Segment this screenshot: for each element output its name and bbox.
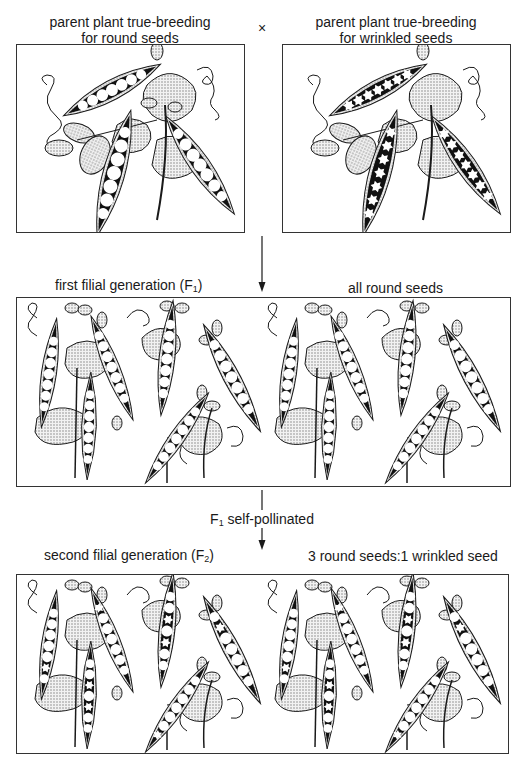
f2-pea-plants-illustration [17, 575, 509, 754]
f1-title-prefix: first filial generation (F [55, 277, 193, 293]
parent-round-label: parent plant true-breeding for round see… [20, 14, 240, 46]
parent-wrinkled-label: parent plant true-breeding for wrinkled … [286, 14, 506, 46]
step-prefix: F [210, 511, 219, 527]
f2-title-suffix: ) [209, 547, 214, 563]
cross-symbol: × [252, 20, 272, 36]
parent-wrinkled-panel [282, 44, 511, 233]
step-suffix: self-pollinated [224, 511, 314, 527]
f2-result: 3 round seeds:1 wrinkled seed [308, 548, 498, 564]
arrow-down-icon [257, 236, 267, 292]
f2-title-prefix: second filial generation (F [44, 547, 204, 563]
pea-plant-round-illustration [17, 45, 245, 233]
f1-title: first filial generation (F1) [55, 277, 202, 297]
pea-plant-wrinkled-illustration [283, 45, 511, 233]
f1-pea-plants-illustration [17, 298, 511, 487]
f1-result: all round seeds [348, 280, 443, 296]
f1-panel [16, 297, 511, 487]
parent-wrinkled-label-line1: parent plant true-breeding [286, 14, 506, 30]
parent-round-label-line1: parent plant true-breeding [20, 14, 240, 30]
connector-line [257, 490, 267, 510]
f2-panel [16, 574, 509, 754]
f2-title: second filial generation (F2) [44, 547, 214, 567]
f1-title-suffix: ) [198, 277, 203, 293]
arrow-down-icon [257, 528, 267, 550]
parent-round-panel [16, 44, 245, 233]
